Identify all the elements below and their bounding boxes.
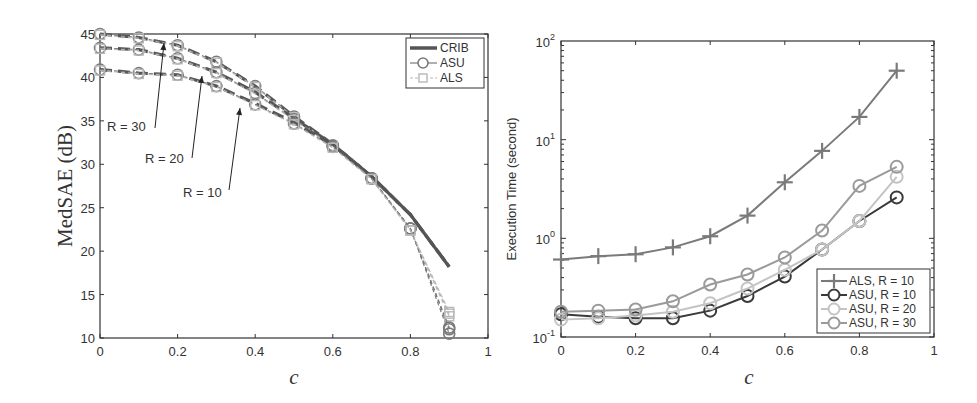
legend-label: CRIB xyxy=(440,41,469,55)
x-tick-label: 0 xyxy=(557,343,564,358)
y-tick-label: 30 xyxy=(81,157,95,172)
y-axis-label: Execution Time (second) xyxy=(504,117,519,260)
figure: 00.20.40.60.811015202530354045MedSAE (dB… xyxy=(0,0,977,403)
x-tick-label: 0 xyxy=(96,344,103,359)
y-tick-label: 101 xyxy=(536,131,555,149)
legend-label: ASU xyxy=(440,56,465,70)
y-tick-label: 15 xyxy=(81,288,95,303)
legend: ALS, R = 10ASU, R = 10ASU, R = 20ASU, R … xyxy=(817,269,930,333)
circle-marker-icon xyxy=(829,290,840,301)
y-tick-label: 10-1 xyxy=(533,328,555,346)
x-axis-label: c xyxy=(289,365,299,389)
y-tick-label: 10 xyxy=(81,331,95,346)
y-tick-label: 40 xyxy=(81,70,95,85)
legend-label: ALS xyxy=(440,71,463,85)
annotation-label: R = 30 xyxy=(107,119,146,134)
circle-marker-icon xyxy=(829,304,840,315)
circle-marker-icon xyxy=(418,58,428,68)
annotation-label: R = 20 xyxy=(145,151,184,166)
left-chart-medsae: 00.20.40.60.811015202530354045MedSAE (dB… xyxy=(53,27,492,389)
x-tick-label: 0.4 xyxy=(701,343,719,358)
tick-base: 10 xyxy=(536,232,550,247)
right-chart-execution-time: 00.20.40.60.8110-1100101102Execution Tim… xyxy=(504,32,938,389)
legend-label: ASU, R = 10 xyxy=(849,288,916,302)
tick-exponent: -1 xyxy=(547,328,555,338)
x-tick-label: 0.2 xyxy=(169,344,187,359)
x-tick-label: 0.4 xyxy=(246,344,264,359)
legend-label: ASU, R = 20 xyxy=(849,302,916,316)
tick-base: 10 xyxy=(536,134,550,149)
tick-exponent: 2 xyxy=(550,32,555,42)
tick-exponent: 1 xyxy=(550,131,555,141)
y-tick-label: 20 xyxy=(81,244,95,259)
annotation-label: R = 10 xyxy=(183,185,222,200)
y-tick-label: 25 xyxy=(81,201,95,216)
square-marker-icon xyxy=(419,74,427,82)
x-tick-label: 1 xyxy=(930,343,937,358)
legend-label: ALS, R = 10 xyxy=(849,274,914,288)
x-axis-label: c xyxy=(744,365,754,389)
x-tick-label: 0.6 xyxy=(776,343,794,358)
tick-exponent: 0 xyxy=(550,229,555,239)
circle-marker-icon xyxy=(829,318,840,329)
y-tick-label: 45 xyxy=(81,27,95,42)
legend-label: ASU, R = 30 xyxy=(849,316,916,330)
x-tick-label: 0.8 xyxy=(850,343,868,358)
legend: CRIBASUALS xyxy=(406,38,484,88)
tick-base: 10 xyxy=(533,331,547,346)
x-tick-label: 0.2 xyxy=(627,343,645,358)
tick-base: 10 xyxy=(536,35,550,50)
y-tick-label: 102 xyxy=(536,32,555,50)
y-tick-label: 100 xyxy=(536,229,555,247)
x-tick-label: 0.6 xyxy=(324,344,342,359)
x-tick-label: 0.8 xyxy=(401,344,419,359)
y-axis-label: MedSAE (dB) xyxy=(53,125,77,247)
y-tick-label: 35 xyxy=(81,114,95,129)
x-tick-label: 1 xyxy=(484,344,491,359)
